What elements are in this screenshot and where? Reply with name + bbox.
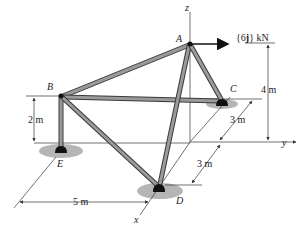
dim-label-2m: 2 m <box>28 114 44 125</box>
label-y: y <box>281 137 287 148</box>
ground-supports <box>39 99 238 199</box>
label-C: C <box>230 83 237 94</box>
member-AB <box>63 45 189 96</box>
dim-label-5m: 5 m <box>73 196 89 207</box>
label-x: x <box>133 214 139 225</box>
label-E: E <box>56 158 63 169</box>
dim-label-3m-C: 3 m <box>230 114 246 125</box>
member-BD <box>63 98 157 185</box>
member-BC <box>63 97 220 101</box>
label-A: A <box>175 33 183 44</box>
dim-label-4m: 4 m <box>261 84 277 95</box>
label-B: B <box>47 81 53 92</box>
dim-label-3m-D: 3 m <box>197 158 213 169</box>
member-AD <box>160 46 189 184</box>
force-label: {6j} kN <box>236 32 269 43</box>
ref-line-E-leader <box>14 157 56 208</box>
member-AC <box>191 46 221 99</box>
space-truss-diagram: z A B C E D x y {6j} kN 2 m 4 m 3 m 3 m … <box>0 0 301 234</box>
joint-B <box>59 94 64 99</box>
label-z: z <box>184 2 189 13</box>
label-D: D <box>175 195 184 206</box>
